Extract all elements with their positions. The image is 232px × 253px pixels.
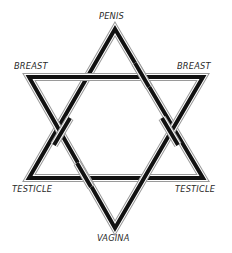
hexagram-diagram: PENIS BREAST BREAST TESTICLE TESTICLE VA… <box>0 0 232 253</box>
label-top-vertex: PENIS <box>99 11 124 21</box>
downward-triangle <box>29 77 203 228</box>
star-of-david-icon <box>0 0 232 253</box>
label-upper-left-vertex: BREAST <box>14 61 48 71</box>
upward-triangle <box>29 29 203 180</box>
label-upper-right-vertex: BREAST <box>177 61 211 71</box>
label-lower-left-vertex: TESTICLE <box>12 184 52 194</box>
interlace-overlaps <box>54 63 178 187</box>
label-bottom-vertex: VAGINA <box>97 233 130 243</box>
label-lower-right-vertex: TESTICLE <box>175 184 215 194</box>
